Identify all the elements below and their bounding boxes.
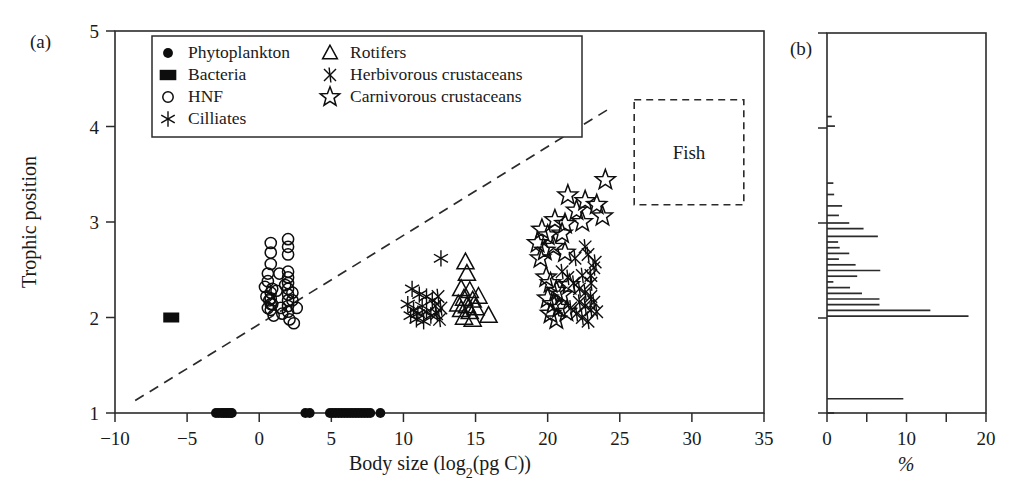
- cross-x-icon: [584, 239, 586, 255]
- filled-square-icon: [160, 70, 177, 80]
- panel-a-yaxis-title: Trophic position: [18, 156, 41, 288]
- figure-container: (a) −10−50510152025303512345 Fish Phytop…: [0, 0, 1016, 503]
- legend-marker-filled-circle: [163, 48, 173, 58]
- data-point: [434, 250, 448, 266]
- x-tick-label: 15: [466, 428, 485, 449]
- y-tick-label: 1: [90, 403, 100, 424]
- cross-x-icon: [439, 312, 441, 328]
- cross-x-icon: [584, 285, 586, 301]
- filled-circle-icon: [227, 408, 237, 418]
- open-star-icon: [555, 242, 575, 261]
- x-tick-label: 5: [327, 428, 337, 449]
- histogram-bars: [827, 117, 969, 413]
- cross-x-icon: [587, 314, 589, 330]
- cross-x-icon: [581, 310, 583, 326]
- y-tick-label: 5: [90, 21, 100, 42]
- series-rotifers: [450, 253, 497, 326]
- open-star-icon: [536, 267, 556, 286]
- x-tick-label: 0: [254, 428, 264, 449]
- panel-a-label: (a): [30, 31, 51, 53]
- panel-b-ticks: [818, 33, 986, 422]
- open-star-icon: [592, 206, 612, 225]
- cross-x-icon: [581, 268, 583, 284]
- figure-svg: (a) −10−50510152025303512345 Fish Phytop…: [0, 0, 1016, 503]
- panel-b-tick-labels: 01020: [822, 428, 995, 449]
- data-point: [572, 211, 592, 230]
- open-circle-icon: [282, 249, 293, 260]
- filled-square-icon: [163, 313, 179, 323]
- panel-b-frame: [827, 33, 986, 413]
- data-point: [555, 242, 575, 261]
- x-tick-label: 25: [610, 428, 629, 449]
- data-point: [576, 268, 588, 284]
- y-tick-label: 4: [90, 117, 100, 138]
- x-tick-label: 20: [977, 428, 996, 449]
- series-bacteria: [163, 313, 179, 323]
- data-point: [375, 408, 385, 418]
- panel-b-label: (b): [790, 38, 812, 60]
- data-point: [282, 249, 293, 260]
- data-point: [405, 281, 419, 297]
- legend-label: Rotifers: [350, 42, 407, 62]
- data-point: [595, 169, 615, 188]
- fish-label: Fish: [673, 142, 706, 163]
- legend-marker-filled-square: [160, 70, 177, 80]
- data-point: [365, 408, 375, 418]
- x-tick-label: −5: [177, 428, 197, 449]
- data-point: [558, 185, 578, 204]
- cross-x-icon: [584, 298, 586, 314]
- data-point: [305, 408, 315, 418]
- legend-label: Herbivorous crustaceans: [350, 64, 523, 84]
- cross-x-icon: [578, 281, 580, 297]
- x-tick-label: −10: [100, 428, 130, 449]
- data-point: [227, 408, 237, 418]
- filled-circle-icon: [305, 408, 315, 418]
- panel-b: (b) 01020 %: [790, 33, 996, 475]
- legend-label: Carnivorous crustaceans: [350, 86, 522, 106]
- scatter-data-layer: [163, 169, 615, 418]
- series-carnivorous-crustaceans: [528, 169, 616, 328]
- series-hnf: [259, 234, 302, 329]
- panel-a-xaxis-title: Body size (log2(pg C)): [349, 452, 531, 481]
- filled-circle-icon: [365, 408, 375, 418]
- x-tick-label: 20: [538, 428, 557, 449]
- open-star-icon: [572, 211, 592, 230]
- x-tick-label: 30: [682, 428, 701, 449]
- data-point: [163, 313, 179, 323]
- x-tick-label: 10: [394, 428, 413, 449]
- y-tick-label: 3: [90, 212, 100, 233]
- x-tick-label: 0: [822, 428, 832, 449]
- legend-label: Phytoplankton: [188, 42, 290, 62]
- open-star-icon: [558, 185, 578, 204]
- cross-x-icon: [578, 294, 580, 310]
- x-tick-label: 10: [897, 428, 916, 449]
- panel-a: (a) −10−50510152025303512345 Fish Phytop…: [18, 21, 774, 481]
- data-point: [536, 267, 556, 286]
- y-tick-label: 2: [90, 308, 100, 329]
- filled-circle-icon: [163, 48, 173, 58]
- legend-label: Cilliates: [188, 108, 247, 128]
- data-point: [592, 206, 612, 225]
- filled-circle-icon: [375, 408, 385, 418]
- cross-x-icon: [590, 289, 592, 305]
- legend-label: Bacteria: [188, 64, 247, 84]
- legend-label: HNF: [188, 86, 223, 106]
- x-tick-label: 35: [755, 428, 774, 449]
- cross-x-icon: [574, 251, 576, 267]
- open-star-icon: [595, 169, 615, 188]
- panel-b-xaxis-title: %: [898, 453, 915, 475]
